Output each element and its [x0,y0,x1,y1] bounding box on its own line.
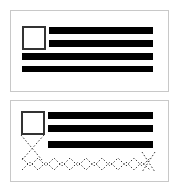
dotted-wrap-pattern [0,0,181,182]
